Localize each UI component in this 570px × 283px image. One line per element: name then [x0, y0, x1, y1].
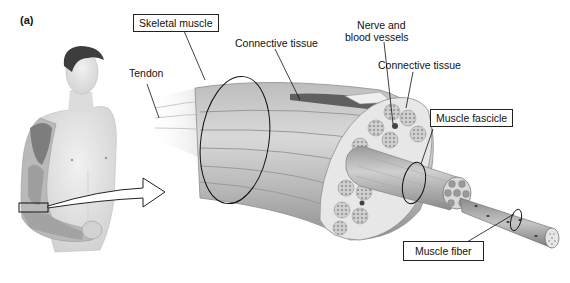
label-connective-tissue-2: Connective tissue — [378, 59, 461, 71]
label-nerve-line1: Nerve and — [345, 19, 409, 31]
panel-label: (a) — [20, 14, 33, 26]
label-tendon: Tendon — [129, 67, 163, 79]
label-muscle-fiber: Muscle fiber — [403, 241, 484, 261]
label-skeletal-muscle: Skeletal muscle — [133, 14, 219, 32]
muscle-structure-diagram: (a) Skeletal muscle Tendon Connective ti… — [0, 0, 570, 283]
label-muscle-fascicle: Muscle fascicle — [430, 109, 513, 127]
label-nerve-line2: blood vessels — [345, 31, 409, 43]
label-nerve-and-blood-vessels: Nerve and blood vessels — [345, 19, 409, 43]
label-connective-tissue-1: Connective tissue — [235, 37, 318, 49]
human-figure — [19, 46, 116, 252]
